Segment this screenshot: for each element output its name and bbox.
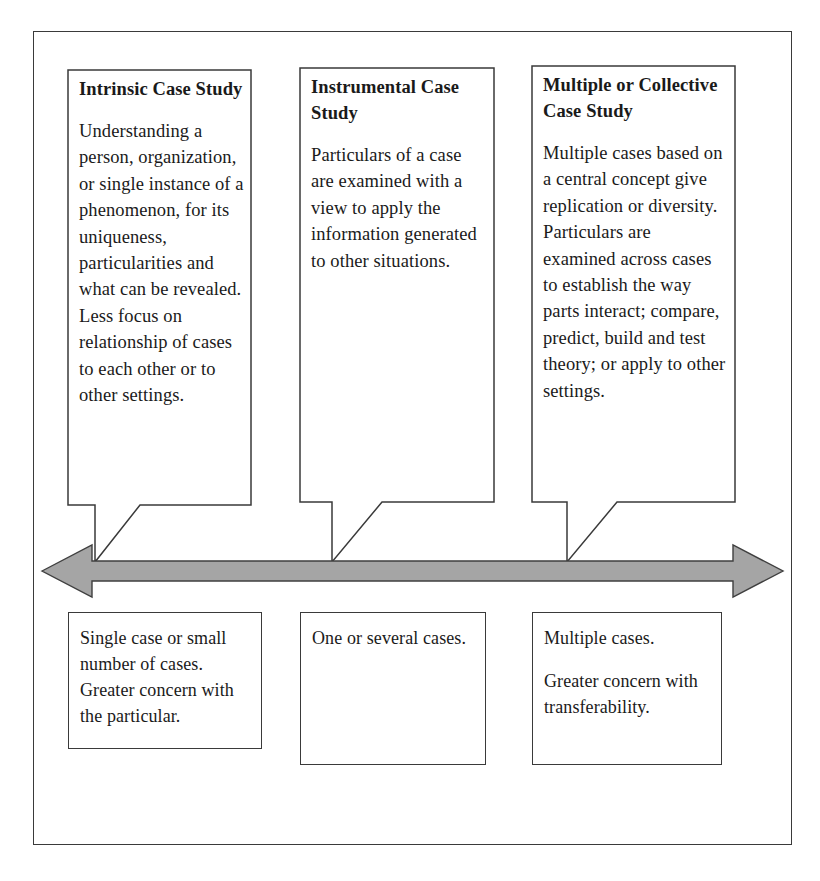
descriptor-instrumental-paragraph-1: One or several cases. [312,625,477,651]
callout-collective-body: Multiple cases based on a central concep… [543,140,728,404]
callout-instrumental-text: Instrumental Case Study Particulars of a… [311,74,487,274]
callout-collective-title: Multiple or Collective Case Study [543,72,728,124]
case-study-types-diagram: Intrinsic Case Study Understanding a per… [0,0,820,881]
descriptor-box-collective: Multiple cases. Greater concern with tra… [532,612,722,765]
callout-intrinsic-body: Understanding a person, organization, or… [79,118,245,408]
descriptor-collective-paragraph-1: Multiple cases. [544,625,716,651]
descriptor-box-intrinsic: Single case or small number of cases. Gr… [68,612,262,749]
descriptor-box-instrumental: One or several cases. [300,612,486,765]
callout-instrumental-title: Instrumental Case Study [311,74,487,126]
callout-collective-text: Multiple or Collective Case Study Multip… [543,72,728,404]
callout-instrumental-body: Particulars of a case are examined with … [311,142,487,274]
callout-intrinsic-text: Intrinsic Case Study Understanding a per… [79,76,245,408]
descriptor-collective-paragraph-2: Greater concern with transferability. [544,668,716,720]
callout-intrinsic-title: Intrinsic Case Study [79,76,245,102]
descriptor-intrinsic-paragraph-1: Single case or small number of cases. Gr… [80,625,246,729]
